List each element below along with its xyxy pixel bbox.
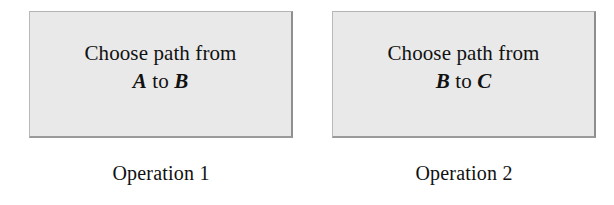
diagram-canvas: Choose path from A to B Operation 1 Choo… <box>0 0 614 205</box>
from-node-label: A <box>133 69 147 93</box>
caption-operation-1: Operation 1 <box>29 162 293 185</box>
process-box-operation-1[interactable]: Choose path from A to B <box>29 11 293 138</box>
to-node-label: C <box>477 69 491 93</box>
from-node-label: B <box>436 69 450 93</box>
connector-label: to <box>455 69 472 93</box>
box-text-line-2: A to B <box>84 68 236 96</box>
connector-label: to <box>152 69 169 93</box>
process-box-text-2: Choose path from B to C <box>387 40 539 96</box>
caption-operation-2: Operation 2 <box>332 162 596 185</box>
box-text-line-2: B to C <box>387 68 539 96</box>
box-text-line-1: Choose path from <box>84 40 236 68</box>
process-box-operation-2[interactable]: Choose path from B to C <box>332 11 596 138</box>
box-text-line-1: Choose path from <box>387 40 539 68</box>
to-node-label: B <box>174 69 188 93</box>
process-box-text-1: Choose path from A to B <box>84 40 236 96</box>
